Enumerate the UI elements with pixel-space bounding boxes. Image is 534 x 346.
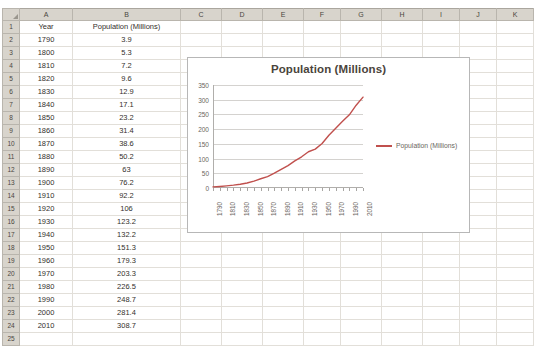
cell-b3[interactable]: 5.3	[73, 47, 181, 60]
cell-g25[interactable]	[341, 333, 382, 346]
table-row[interactable]: 191960179.3	[3, 255, 534, 268]
cell-f23[interactable]	[304, 307, 341, 320]
cell-g18[interactable]	[341, 242, 382, 255]
cell-b24[interactable]: 308.7	[73, 320, 181, 333]
cell-c1[interactable]	[181, 21, 222, 34]
chart-legend[interactable]: Population (Millions)	[376, 142, 457, 149]
cell-f21[interactable]	[304, 281, 341, 294]
cell-d19[interactable]	[222, 255, 263, 268]
select-all-corner[interactable]	[3, 9, 20, 21]
cell-a11[interactable]: 1880	[20, 151, 73, 164]
row-header[interactable]: 7	[3, 99, 20, 112]
cell-c25[interactable]	[181, 333, 222, 346]
cell-b15[interactable]: 106	[73, 203, 181, 216]
cell-i19[interactable]	[423, 255, 460, 268]
cell-a2[interactable]: 1790	[20, 34, 73, 47]
cell-b16[interactable]: 123.2	[73, 216, 181, 229]
cell-h24[interactable]	[382, 320, 423, 333]
row-header[interactable]: 19	[3, 255, 20, 268]
cell-f19[interactable]	[304, 255, 341, 268]
cell-b20[interactable]: 203.3	[73, 268, 181, 281]
cell-a21[interactable]: 1980	[20, 281, 73, 294]
row-header[interactable]: 12	[3, 164, 20, 177]
cell-d21[interactable]	[222, 281, 263, 294]
cell-j18[interactable]	[460, 242, 497, 255]
cell-f25[interactable]	[304, 333, 341, 346]
cell-k8[interactable]	[497, 112, 534, 125]
cell-k3[interactable]	[497, 47, 534, 60]
cell-c21[interactable]	[181, 281, 222, 294]
cell-h23[interactable]	[382, 307, 423, 320]
row-header[interactable]: 11	[3, 151, 20, 164]
row-header[interactable]: 21	[3, 281, 20, 294]
cell-k14[interactable]	[497, 190, 534, 203]
cell-a15[interactable]: 1920	[20, 203, 73, 216]
cell-b17[interactable]: 132.2	[73, 229, 181, 242]
column-header-c[interactable]: C	[181, 9, 222, 21]
cell-a19[interactable]: 1960	[20, 255, 73, 268]
row-header[interactable]: 24	[3, 320, 20, 333]
cell-e21[interactable]	[263, 281, 304, 294]
cell-e2[interactable]	[263, 34, 304, 47]
cell-b21[interactable]: 226.5	[73, 281, 181, 294]
cell-k23[interactable]	[497, 307, 534, 320]
cell-f22[interactable]	[304, 294, 341, 307]
cell-e20[interactable]	[263, 268, 304, 281]
row-header[interactable]: 25	[3, 333, 20, 346]
column-header-i[interactable]: I	[423, 9, 460, 21]
cell-a17[interactable]: 1940	[20, 229, 73, 242]
cell-e24[interactable]	[263, 320, 304, 333]
cell-a3[interactable]: 1800	[20, 47, 73, 60]
cell-b7[interactable]: 17.1	[73, 99, 181, 112]
cell-g2[interactable]	[341, 34, 382, 47]
column-header-g[interactable]: G	[341, 9, 382, 21]
row-header[interactable]: 4	[3, 60, 20, 73]
cell-b5[interactable]: 9.6	[73, 73, 181, 86]
cell-k21[interactable]	[497, 281, 534, 294]
cell-a7[interactable]: 1840	[20, 99, 73, 112]
cell-b19[interactable]: 179.3	[73, 255, 181, 268]
cell-k6[interactable]	[497, 86, 534, 99]
table-row[interactable]: 25	[3, 333, 534, 346]
cell-d1[interactable]	[222, 21, 263, 34]
cell-g23[interactable]	[341, 307, 382, 320]
cell-a12[interactable]: 1890	[20, 164, 73, 177]
table-row[interactable]: 201970203.3	[3, 268, 534, 281]
cell-c18[interactable]	[181, 242, 222, 255]
cell-j25[interactable]	[460, 333, 497, 346]
column-header-k[interactable]: K	[497, 9, 534, 21]
cell-g24[interactable]	[341, 320, 382, 333]
cell-k22[interactable]	[497, 294, 534, 307]
cell-h2[interactable]	[382, 34, 423, 47]
cell-f2[interactable]	[304, 34, 341, 47]
column-header-h[interactable]: H	[382, 9, 423, 21]
table-row[interactable]: 221990248.7	[3, 294, 534, 307]
cell-a4[interactable]: 1810	[20, 60, 73, 73]
cell-k12[interactable]	[497, 164, 534, 177]
cell-e19[interactable]	[263, 255, 304, 268]
cell-j24[interactable]	[460, 320, 497, 333]
cell-b25[interactable]	[73, 333, 181, 346]
cell-d18[interactable]	[222, 242, 263, 255]
cell-h21[interactable]	[382, 281, 423, 294]
cell-k13[interactable]	[497, 177, 534, 190]
row-header[interactable]: 10	[3, 138, 20, 151]
cell-b1[interactable]: Population (Millions)	[73, 21, 181, 34]
cell-a9[interactable]: 1860	[20, 125, 73, 138]
cell-i2[interactable]	[423, 34, 460, 47]
cell-j20[interactable]	[460, 268, 497, 281]
row-header[interactable]: 23	[3, 307, 20, 320]
cell-e1[interactable]	[263, 21, 304, 34]
cell-b8[interactable]: 23.2	[73, 112, 181, 125]
cell-j2[interactable]	[460, 34, 497, 47]
row-header[interactable]: 20	[3, 268, 20, 281]
cell-i20[interactable]	[423, 268, 460, 281]
cell-b2[interactable]: 3.9	[73, 34, 181, 47]
cell-d24[interactable]	[222, 320, 263, 333]
cell-k25[interactable]	[497, 333, 534, 346]
cell-k10[interactable]	[497, 138, 534, 151]
cell-b11[interactable]: 50.2	[73, 151, 181, 164]
table-row[interactable]: 181950151.3	[3, 242, 534, 255]
cell-f18[interactable]	[304, 242, 341, 255]
cell-k18[interactable]	[497, 242, 534, 255]
